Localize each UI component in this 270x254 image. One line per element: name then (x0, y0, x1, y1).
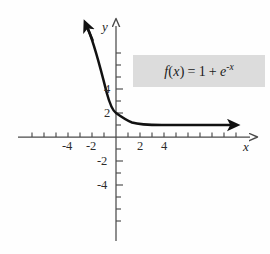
x-tick-label-neg4: -4 (62, 139, 72, 154)
x-axis (18, 133, 250, 138)
x-tick-label-neg2: -2 (86, 139, 96, 154)
formula-exponent: -x (226, 62, 233, 72)
y-tick-label-neg2: -2 (97, 154, 107, 169)
x-tick-label-2: 2 (137, 139, 143, 154)
y-axis-name: y (102, 19, 108, 35)
formula-label-box: f(x)=1+e-x (133, 55, 265, 87)
figure-container: -4 -2 2 4 4 2 -2 -4 y x f(x)=1+e-x (0, 0, 270, 254)
x-tick-label-4: 4 (161, 139, 167, 154)
formula-equals: = (185, 64, 199, 79)
x-axis-ticks (32, 133, 236, 138)
graph-canvas (0, 0, 270, 254)
formula-constant: 1 (199, 64, 206, 79)
y-axis (116, 26, 123, 241)
y-tick-label-neg4: -4 (97, 178, 107, 193)
formula-plus: + (206, 64, 220, 79)
y-tick-label-4: 4 (104, 82, 110, 97)
formula-text: f(x)=1+e-x (164, 62, 234, 80)
y-tick-label-2: 2 (104, 106, 110, 121)
x-axis-name: x (243, 139, 249, 155)
formula-paren-close: ) (180, 64, 185, 79)
